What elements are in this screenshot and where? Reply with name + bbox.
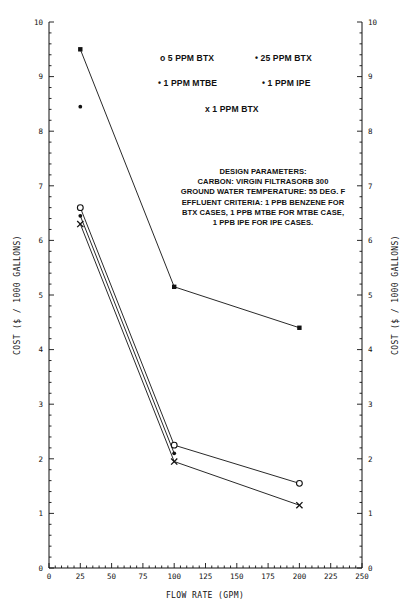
- design-parameters-line-1: CARBON: VIRGIN FILTRASORB 300: [148, 177, 378, 187]
- design-parameters-annotation: DESIGN PARAMETERS: CARBON: VIRGIN FILTRA…: [148, 167, 378, 228]
- y-axis-left-tick-label: 0: [38, 564, 43, 573]
- y-axis-left-tick-label: 10: [34, 18, 44, 27]
- legend-entry-1ppm-ipe: • 1 PPM IPE: [262, 78, 311, 88]
- y-axis-right-tick-label: 9: [368, 72, 373, 81]
- y-axis-left-tick-label: 4: [38, 345, 43, 354]
- legend-entry-1ppm-btx: x 1 PPM BTX: [205, 104, 259, 114]
- series-line-1-ppm-btx: [80, 224, 299, 505]
- legend-entry-5ppm-btx: o 5 PPM BTX: [160, 53, 214, 63]
- y-axis-right-title: COST ($ / 1000 GALLONS): [391, 235, 400, 355]
- y-axis-right-tick-label: 3: [368, 400, 373, 409]
- x-axis-tick-label: 175: [261, 572, 275, 581]
- design-parameters-line-3: EFFLUENT CRITERIA: 1 PPB BENZENE FOR: [148, 198, 378, 208]
- design-parameters-line-2: GROUND WATER TEMPERATURE: 55 DEG. F: [148, 187, 378, 197]
- data-point-5-ppm-btx: [171, 442, 177, 448]
- y-axis-right-tick-label: 10: [368, 18, 378, 27]
- data-point-5-ppm-btx: [77, 205, 83, 211]
- data-point-1-ppm-btx: [77, 221, 83, 227]
- y-axis-right-tick-label: 5: [368, 291, 373, 300]
- legend-entry-25ppm-btx: • 25 PPM BTX: [255, 53, 312, 63]
- y-axis-right-ticks: 012345678910: [357, 18, 378, 573]
- y-axis-left-tick-label: 9: [38, 72, 43, 81]
- scatter-plot-canvas: 012345678910 012345678910 02550751001251…: [0, 0, 411, 607]
- legend-entry-1ppm-mtbe: • 1 PPM MTBE: [158, 78, 217, 88]
- y-axis-left-tick-label: 2: [38, 455, 43, 464]
- y-axis-left-tick-label: 5: [38, 291, 43, 300]
- x-axis-tick-label: 250: [355, 572, 369, 581]
- y-axis-left-tick-label: 7: [38, 182, 43, 191]
- design-parameters-line-4: BTX CASES, 1 PPB MTBE FOR MTBE CASE,: [148, 208, 378, 218]
- y-axis-left-tick-label: 1: [38, 509, 43, 518]
- series-lines: [80, 49, 299, 505]
- x-axis-tick-label: 50: [107, 572, 117, 581]
- x-axis-tick-label: 0: [47, 572, 52, 581]
- x-axis-tick-label: 150: [230, 572, 244, 581]
- y-axis-left-title: COST ($ / 1000 GALLONS): [13, 235, 22, 355]
- y-axis-left-ticks: 012345678910: [34, 18, 54, 573]
- y-axis-left-tick-label: 6: [38, 236, 43, 245]
- data-point-1-ppm-ipe: [78, 214, 82, 218]
- data-point-1-ppm-btx: [171, 458, 177, 464]
- series-markers: [77, 47, 302, 508]
- y-axis-right-tick-label: 1: [368, 509, 373, 518]
- y-axis-right-tick-label: 4: [368, 345, 373, 354]
- data-point-1-ppm-ipe: [172, 451, 176, 455]
- data-point-25-ppm-btx: [172, 285, 176, 289]
- y-axis-left-tick-label: 8: [38, 127, 43, 136]
- x-axis-tick-label: 125: [199, 572, 213, 581]
- chart-figure: 012345678910 012345678910 02550751001251…: [0, 0, 411, 607]
- design-parameters-line-5: 1 PPB IPE FOR IPE CASES.: [148, 218, 378, 228]
- y-axis-right-tick-label: 2: [368, 455, 373, 464]
- x-axis-title: FLOW RATE (GPM): [166, 591, 244, 600]
- x-axis-tick-label: 75: [138, 572, 147, 581]
- x-axis-tick-label: 100: [167, 572, 181, 581]
- data-point-5-ppm-btx: [297, 480, 303, 486]
- data-point-25-ppm-btx: [78, 47, 82, 51]
- data-point-1-ppm-mtbe: [78, 105, 82, 109]
- y-axis-right-tick-label: 6: [368, 236, 373, 245]
- y-axis-right-tick-label: 8: [368, 127, 373, 136]
- data-point-25-ppm-btx: [297, 326, 301, 330]
- design-parameters-heading: DESIGN PARAMETERS:: [148, 167, 378, 177]
- series-line-5-ppm-btx: [80, 208, 299, 484]
- y-axis-left-tick-label: 3: [38, 400, 43, 409]
- x-axis-tick-label: 200: [293, 572, 307, 581]
- x-axis-ticks: 0255075100125150175200225250: [47, 563, 370, 581]
- x-axis-tick-label: 225: [324, 572, 338, 581]
- x-axis-tick-label: 25: [76, 572, 85, 581]
- data-point-1-ppm-btx: [296, 502, 302, 508]
